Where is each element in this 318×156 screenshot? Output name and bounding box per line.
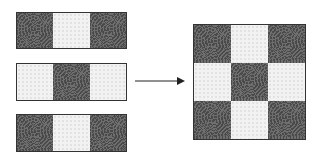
strip-1-cell-1-dark	[17, 13, 53, 48]
strip-1-cell-2-light	[53, 13, 89, 48]
grid-cell-1-2-light	[231, 25, 268, 63]
strip-2	[16, 63, 127, 101]
strip-1-cell-3-dark	[90, 13, 126, 48]
arrow-right-icon	[134, 76, 186, 86]
strip-3-cell-1-dark	[17, 115, 53, 151]
strip-2-cell-3-light	[90, 64, 126, 100]
grid-cell-2-1-light	[194, 63, 231, 101]
strip-3-cell-2-light	[53, 115, 89, 151]
strip-1	[16, 12, 127, 49]
grid-cell-3-1-dark	[194, 101, 231, 139]
grid-cell-2-3-light	[268, 63, 305, 101]
grid-cell-3-2-light	[231, 101, 268, 139]
grid-cell-1-1-dark	[194, 25, 231, 63]
grid-cell-1-3-dark	[268, 25, 305, 63]
result-grid	[193, 24, 306, 140]
strip-2-cell-2-dark	[53, 64, 89, 100]
strip-2-cell-1-light	[17, 64, 53, 100]
grid-cell-3-3-dark	[268, 101, 305, 139]
strip-3-cell-3-dark	[90, 115, 126, 151]
strip-3	[16, 114, 127, 152]
grid-cell-2-2-dark	[231, 63, 268, 101]
